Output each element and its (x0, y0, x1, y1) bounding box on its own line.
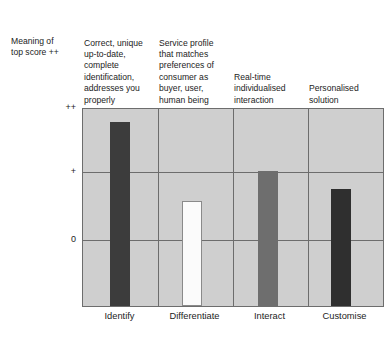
column-header-interact: Real-time individualised interaction (234, 72, 306, 106)
plot-area (82, 108, 384, 307)
y-axis-tick-zero: 0 (58, 234, 76, 244)
column-header-differentiate: Service profile that matches preferences… (159, 38, 231, 106)
bar-interact (258, 171, 278, 306)
bar-differentiate (182, 201, 202, 306)
x-axis-tick-differentiate: Differentiate (157, 310, 232, 322)
y-axis-tick-plus: + (58, 166, 76, 176)
column-divider-1 (158, 109, 159, 306)
column-header-group: Correct, unique up-to-date, complete ide… (82, 0, 384, 108)
column-header-identify: Correct, unique up-to-date, complete ide… (84, 38, 156, 106)
y-axis-title: Meaning of top score ++ (11, 36, 81, 59)
y-axis-tick-plusplus: ++ (58, 102, 76, 112)
y-axis-tick-group: ++ + 0 (52, 108, 76, 307)
bar-identify (110, 122, 130, 306)
x-axis-tick-group: Identify Differentiate Interact Customis… (82, 310, 384, 330)
x-axis-tick-interact: Interact (232, 310, 307, 322)
column-header-customise: Personalised solution (309, 83, 381, 106)
column-divider-3 (308, 109, 309, 306)
bar-customise (331, 189, 351, 306)
bar-chart-figure: Meaning of top score ++ Correct, unique … (0, 0, 392, 346)
column-divider-2 (233, 109, 234, 306)
x-axis-tick-identify: Identify (82, 310, 157, 322)
x-axis-tick-customise: Customise (307, 310, 382, 322)
